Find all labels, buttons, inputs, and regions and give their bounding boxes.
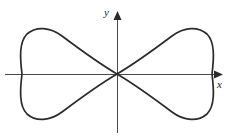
figure-eight-curve-figure: y x xyxy=(0,0,234,136)
y-axis-label: y xyxy=(104,7,109,18)
y-axis-arrowhead-icon xyxy=(114,11,122,20)
plot-canvas xyxy=(0,0,234,136)
x-axis-label: x xyxy=(217,79,222,90)
